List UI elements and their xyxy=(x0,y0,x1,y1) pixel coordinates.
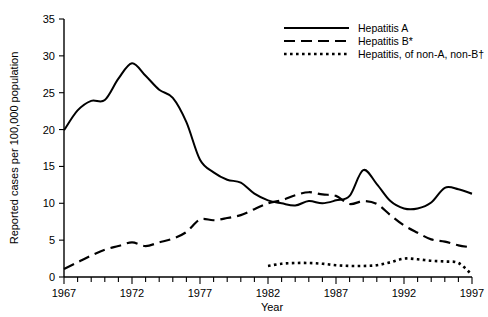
x-axis-ticks xyxy=(64,277,472,284)
hepatitis-incidence-line-chart: 05101520253035 1967197219771982198719921… xyxy=(0,0,488,317)
y-tick-label: 30 xyxy=(43,50,55,62)
y-axis-ticks xyxy=(59,19,64,277)
x-tick-label: 1992 xyxy=(392,287,416,299)
legend-label-1: Hepatitis A xyxy=(358,22,408,34)
x-tick-label: 1997 xyxy=(460,287,484,299)
x-axis-title: Year xyxy=(261,301,284,313)
chart-container: 05101520253035 1967197219771982198719921… xyxy=(0,0,488,317)
x-tick-label: 1972 xyxy=(120,287,144,299)
y-tick-label: 5 xyxy=(49,234,55,246)
y-tick-label: 10 xyxy=(43,197,55,209)
chart-legend: Hepatitis AHepatitis B*Hepatitis, of non… xyxy=(284,22,484,60)
y-tick-label: 35 xyxy=(43,13,55,25)
y-tick-label: 25 xyxy=(43,87,55,99)
series-line-1 xyxy=(64,63,472,209)
legend-label-2: Hepatitis B* xyxy=(358,35,413,47)
y-axis-tick-labels: 05101520253035 xyxy=(43,13,55,283)
x-axis-tick-labels: 1967197219771982198719921997 xyxy=(52,287,484,299)
x-tick-label: 1982 xyxy=(256,287,280,299)
series-line-2 xyxy=(64,192,472,269)
x-tick-label: 1977 xyxy=(188,287,212,299)
series-line-3 xyxy=(268,258,472,274)
y-tick-label: 15 xyxy=(43,160,55,172)
series-group xyxy=(64,63,472,275)
y-tick-label: 20 xyxy=(43,124,55,136)
y-axis-title: Reported cases per 100,000 population xyxy=(8,52,20,245)
x-tick-label: 1967 xyxy=(52,287,76,299)
legend-label-3: Hepatitis, of non-A, non-B† xyxy=(358,48,484,60)
x-tick-label: 1987 xyxy=(324,287,348,299)
y-tick-label: 0 xyxy=(49,271,55,283)
